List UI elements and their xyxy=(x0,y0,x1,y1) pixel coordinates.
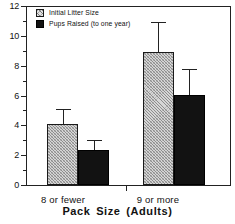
chart-legend: Initial Litter Size Pups Raised (to one … xyxy=(36,9,130,28)
y-tick-major xyxy=(21,125,26,126)
plot-top-border xyxy=(26,6,231,7)
plot-right-border xyxy=(230,6,231,186)
legend-swatch-solid-icon xyxy=(36,20,44,28)
error-bar-line xyxy=(158,22,159,52)
x-axis-title: Pack Size (Adults) xyxy=(0,205,235,217)
y-tick-minor xyxy=(23,110,26,111)
y-tick-major xyxy=(21,36,26,37)
y-tick-label: 8 xyxy=(14,61,19,70)
y-tick-major xyxy=(21,185,26,186)
legend-label: Initial Litter Size xyxy=(49,9,99,17)
y-axis-line xyxy=(26,6,27,186)
y-tick-minor xyxy=(23,21,26,22)
y-tick-minor xyxy=(23,51,26,52)
x-tick xyxy=(126,186,127,191)
legend-item-initial-litter-size: Initial Litter Size xyxy=(36,9,130,17)
y-tick-major xyxy=(21,66,26,67)
error-bar-cap xyxy=(87,140,102,141)
legend-swatch-hatched-icon xyxy=(36,9,44,17)
bar-chart: 024681012 8 or fewer9 or more Initial Li… xyxy=(0,0,235,224)
y-tick-major xyxy=(21,96,26,97)
error-bar-cap xyxy=(182,69,197,70)
y-tick-label: 10 xyxy=(9,31,19,40)
y-tick-minor xyxy=(23,170,26,171)
y-tick-label: 4 xyxy=(14,121,19,130)
y-tick-label: 6 xyxy=(14,91,19,100)
bar xyxy=(78,150,109,185)
y-tick-label: 2 xyxy=(14,151,19,160)
error-bar-cap xyxy=(151,22,166,23)
x-axis-line xyxy=(26,185,231,186)
y-tick-minor xyxy=(23,81,26,82)
error-bar-line xyxy=(94,140,95,150)
legend-label: Pups Raised (to one year) xyxy=(49,20,130,28)
y-tick-label: 12 xyxy=(9,2,19,11)
legend-item-pups-raised: Pups Raised (to one year) xyxy=(36,20,130,28)
y-tick-label: 0 xyxy=(14,181,19,190)
error-bar-line xyxy=(63,109,64,124)
bar xyxy=(47,124,78,185)
x-category-label: 8 or fewer xyxy=(41,194,85,205)
y-tick-major xyxy=(21,155,26,156)
bar xyxy=(143,52,174,185)
error-bar-line xyxy=(189,69,190,95)
plot-area: 024681012 8 or fewer9 or more xyxy=(26,6,231,186)
error-bar-cap xyxy=(56,109,71,110)
y-tick-major xyxy=(21,6,26,7)
bar xyxy=(174,95,205,185)
x-category-label: 9 or more xyxy=(137,194,179,205)
y-tick-minor xyxy=(23,140,26,141)
